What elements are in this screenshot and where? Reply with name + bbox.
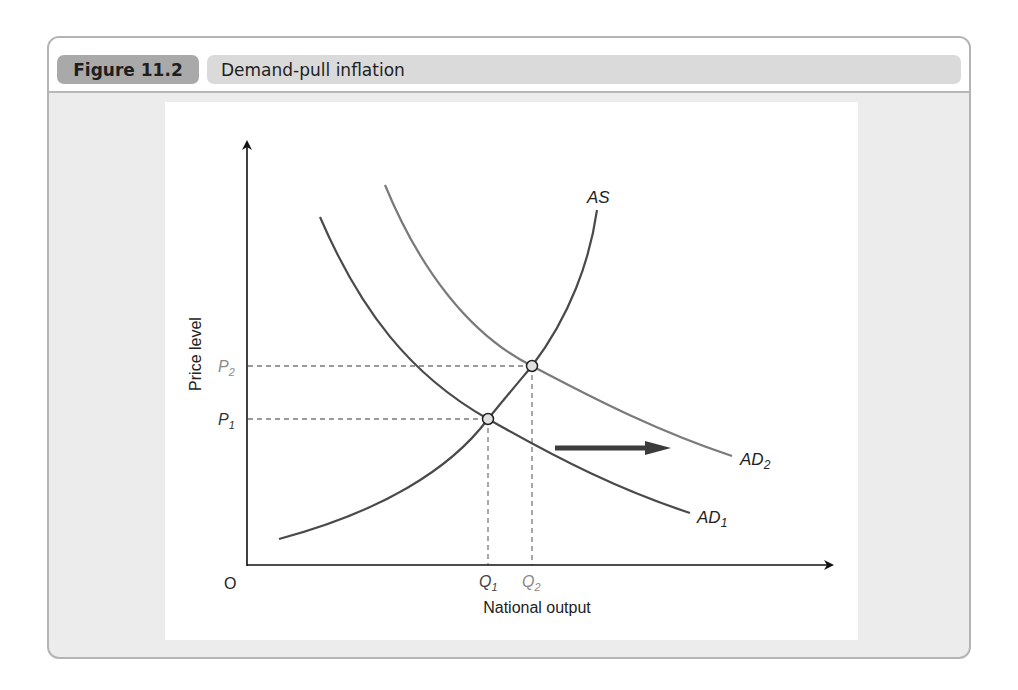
ad1-curve (320, 217, 690, 513)
q2-label: Q2 (522, 573, 541, 593)
ad2-curve (385, 185, 732, 456)
ad2-label: AD2 (739, 450, 771, 472)
ad1-label: AD1 (696, 508, 727, 530)
equilibrium-point-1 (483, 414, 494, 425)
origin-label: O (224, 575, 236, 592)
p2-label: P2 (218, 358, 235, 378)
demand-pull-chart: AS AD2 AD1 P2 P1 Q1 Q2 O National output… (0, 0, 1018, 690)
q1-label: Q1 (479, 573, 498, 593)
y-axis-label: Price level (187, 317, 204, 391)
as-label: AS (586, 188, 610, 207)
x-axis-label: National output (483, 599, 591, 616)
equilibrium-point-2 (527, 361, 538, 372)
p1-label: P1 (218, 411, 235, 431)
shift-arrow-icon (555, 441, 671, 455)
